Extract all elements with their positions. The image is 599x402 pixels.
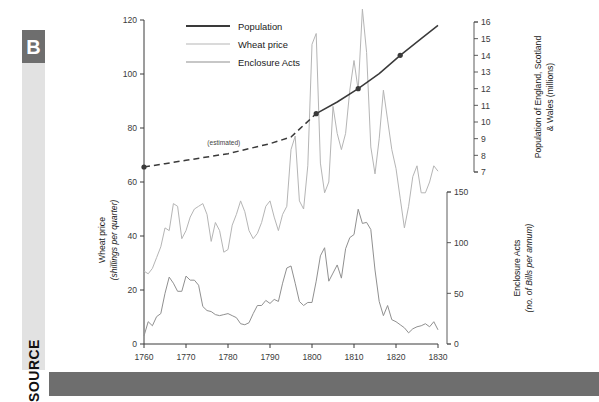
y-right-population-tick-label: 11 (481, 101, 490, 111)
y-left-tick-label: 40 (127, 231, 137, 241)
x-tick-label: 1830 (428, 352, 447, 362)
chart-svg: 0204060801001201760177017801790180018101… (0, 0, 599, 402)
legend-label-population: Population (238, 21, 282, 32)
y-left-tick-label: 0 (132, 339, 137, 349)
series-line-wheat-price (144, 9, 438, 274)
y-right-enclosure-tick-label: 100 (454, 238, 469, 248)
population-census-marker (141, 164, 146, 169)
x-tick-label: 1820 (386, 352, 405, 362)
x-tick-label: 1810 (344, 352, 363, 362)
screenshot-root: B SOURCE 0204060801001201760177017801790… (0, 0, 599, 402)
estimated-note: (estimated) (207, 139, 240, 147)
x-tick-label: 1800 (302, 352, 321, 362)
series-line-enclosure-acts (144, 209, 438, 336)
y-right-population-tick-label: 7 (481, 167, 486, 177)
y-right-population-tick-label: 8 (481, 151, 486, 161)
y-right-population-tick-label: 9 (481, 134, 486, 144)
y-right-population-tick-label: 15 (481, 34, 491, 44)
y-right-population-tick-label: 12 (481, 84, 491, 94)
y-right-enclosure-tick-label: 0 (454, 339, 459, 349)
y-left-tick-label: 60 (127, 177, 137, 187)
legend-label-wheat-price: Wheat price (238, 39, 288, 50)
y-right-population-axis-title-line2: & Wales (millions) (545, 63, 555, 132)
y-right-population-tick-label: 14 (481, 51, 491, 61)
y-right-population-tick-label: 10 (481, 117, 491, 127)
population-census-marker (314, 111, 319, 116)
y-left-axis-title-line1: Wheat price (97, 217, 107, 263)
y-right-population-axis-title-line1: Population of England, Scotland (533, 36, 543, 159)
y-right-population-tick-label: 16 (481, 17, 491, 27)
chart-figure: 0204060801001201760177017801790180018101… (0, 0, 599, 402)
x-tick-label: 1760 (134, 352, 153, 362)
y-right-enclosure-axis-title-line1: Enclosure Acts (512, 240, 522, 297)
legend-label-enclosure-acts: Enclosure Acts (238, 57, 300, 68)
series-line-population-census (316, 25, 438, 113)
population-census-marker (356, 86, 361, 91)
y-right-enclosure-tick-label: 150 (454, 187, 469, 197)
y-right-enclosure-axis-title-line2: (no. of Bills per annum) (524, 223, 534, 312)
chart-axes: 0204060801001201760177017801790180018101… (123, 15, 491, 362)
y-right-population-tick-label: 13 (481, 67, 491, 77)
y-left-tick-label: 120 (123, 15, 138, 25)
chart-legend: PopulationWheat priceEnclosure Acts (186, 21, 300, 68)
x-tick-label: 1770 (176, 352, 195, 362)
y-left-axis-title-line2: (shillings per quarter) (109, 200, 119, 281)
population-census-marker (398, 53, 403, 58)
y-left-tick-label: 100 (123, 69, 138, 79)
x-tick-label: 1780 (218, 352, 237, 362)
y-right-enclosure-tick-label: 50 (454, 289, 464, 299)
y-left-tick-label: 20 (127, 285, 137, 295)
y-left-tick-label: 80 (127, 123, 137, 133)
x-tick-label: 1790 (260, 352, 279, 362)
